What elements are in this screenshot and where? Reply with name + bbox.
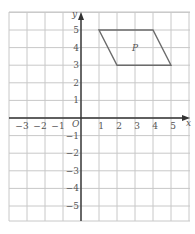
y-tick-label: −5 (66, 201, 80, 211)
y-tick-label: 5 (73, 25, 79, 35)
x-tick-label: 5 (170, 121, 176, 131)
y-tick-label: −3 (66, 166, 80, 176)
x-axis-label: x (186, 118, 191, 128)
y-tick-label: 2 (73, 78, 79, 88)
x-tick-label: 3 (134, 121, 140, 131)
origin-label: O (72, 119, 80, 129)
y-tick-label: 3 (73, 60, 79, 70)
x-tick-label: 4 (152, 121, 158, 131)
shape-label: P (131, 43, 139, 53)
y-tick-label: −1 (66, 131, 79, 141)
y-axis-label: y (71, 9, 78, 19)
x-tick-label: −1 (51, 121, 64, 131)
y-tick-label: −2 (66, 148, 79, 158)
grid-lines (9, 12, 190, 221)
x-tick-label: −3 (15, 121, 29, 131)
coordinate-grid: xyO−3−2−11234554321−1−2−3−4−5 P (0, 0, 195, 234)
y-axis-arrow-icon (78, 12, 84, 20)
x-tick-label: −2 (33, 121, 46, 131)
y-tick-label: −4 (66, 183, 80, 193)
x-tick-label: 1 (98, 121, 104, 131)
x-tick-label: 2 (116, 121, 122, 131)
y-tick-label: 4 (73, 43, 79, 53)
y-tick-label: 1 (73, 95, 79, 105)
